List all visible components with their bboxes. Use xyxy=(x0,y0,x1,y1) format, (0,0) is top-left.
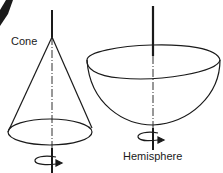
cone-label: Cone xyxy=(11,35,37,47)
hemisphere-shape xyxy=(87,6,220,150)
cone-side-right xyxy=(52,37,92,128)
diagram-canvas xyxy=(0,0,223,173)
hemisphere-label: Hemisphere xyxy=(123,150,182,162)
hemisphere-bowl xyxy=(87,60,220,125)
hemisphere-rotation-arrow-icon xyxy=(138,132,164,143)
cone-side-left xyxy=(8,37,52,132)
cone-rotation-arrow-icon xyxy=(35,156,62,166)
corner-stroke xyxy=(0,0,13,26)
cone-base xyxy=(8,119,92,145)
